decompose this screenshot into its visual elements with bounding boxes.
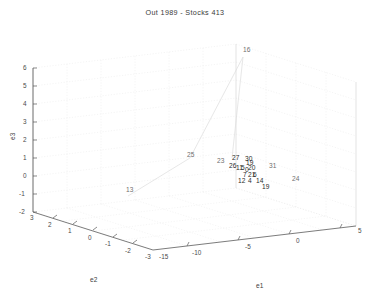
data-point-label-27-4: 27 (232, 155, 239, 162)
data-point-label-13-2: 13 (126, 187, 133, 194)
tick-e1-m15: -15 (159, 254, 168, 260)
axis-title-e3: e3 (10, 133, 17, 140)
tick-e1-m5: -5 (245, 244, 251, 250)
data-point-label-12-16: 12 (238, 178, 245, 185)
data-point-label-4-17: 4 (248, 178, 252, 185)
tick-e2-1: 1 (68, 228, 72, 234)
data-point-label-19-19: 19 (262, 184, 269, 191)
tick-e1-5: 5 (358, 228, 362, 234)
data-point-label-24-20: 24 (292, 176, 299, 183)
tick-e2-0: 0 (88, 235, 92, 241)
axes-box-edges (33, 44, 356, 226)
data-point-label-31-12: 31 (269, 163, 276, 170)
tick-e1-0: 0 (296, 238, 300, 244)
data-point-label-23-3: 23 (217, 158, 224, 165)
grid-right-wall (236, 44, 356, 226)
data-point-label-25-1: 25 (187, 152, 194, 159)
tick-e3-2: 2 (23, 137, 27, 143)
figure-3d-scatter: Out 1989 - Stocks 413 (0, 0, 370, 298)
data-point-label-16-0: 16 (243, 47, 250, 54)
tick-e3-m1: -1 (19, 191, 25, 197)
axis-title-e2: e2 (90, 277, 97, 284)
tick-e3-1: 1 (23, 155, 27, 161)
tick-e3-4: 4 (23, 101, 27, 107)
tick-e2-m2: -2 (125, 248, 131, 254)
tick-e2-2: 2 (48, 222, 52, 228)
grid-floor (33, 188, 356, 250)
tick-e2-3: 3 (30, 215, 34, 221)
tick-e3-m2: -2 (19, 209, 25, 215)
tick-e1-m10: -10 (192, 250, 201, 256)
plot-canvas (0, 0, 370, 298)
tick-e2-m1: -1 (105, 241, 111, 247)
tick-e3-3: 3 (23, 119, 27, 125)
tick-e3-6: 6 (23, 65, 27, 71)
tick-e3-5: 5 (23, 83, 27, 89)
axis-title-e1: e1 (256, 283, 263, 290)
tick-e2-m3: -3 (145, 254, 151, 260)
tick-e3-0: 0 (23, 173, 27, 179)
axis-lines (33, 68, 356, 250)
